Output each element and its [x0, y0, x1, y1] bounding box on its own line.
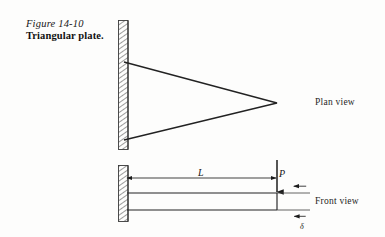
- front-view-label: Front view: [315, 196, 359, 206]
- triangular-plate-outline: [124, 62, 277, 140]
- tip-deflection-label: δ: [300, 222, 304, 231]
- front-view-wall: [119, 166, 129, 222]
- figure-container: Figure 14-10 Triangular plate. Plan view…: [0, 0, 385, 237]
- figure-title: Triangular plate.: [26, 30, 104, 42]
- figure-number: Figure 14-10: [26, 18, 104, 30]
- tip-load-label: P: [279, 168, 285, 179]
- plan-view-wall: [119, 21, 129, 150]
- plan-view-group: [119, 21, 278, 150]
- span-length-label: L: [198, 167, 204, 178]
- plan-view-label: Plan view: [315, 97, 355, 107]
- figure-caption: Figure 14-10 Triangular plate.: [26, 18, 104, 43]
